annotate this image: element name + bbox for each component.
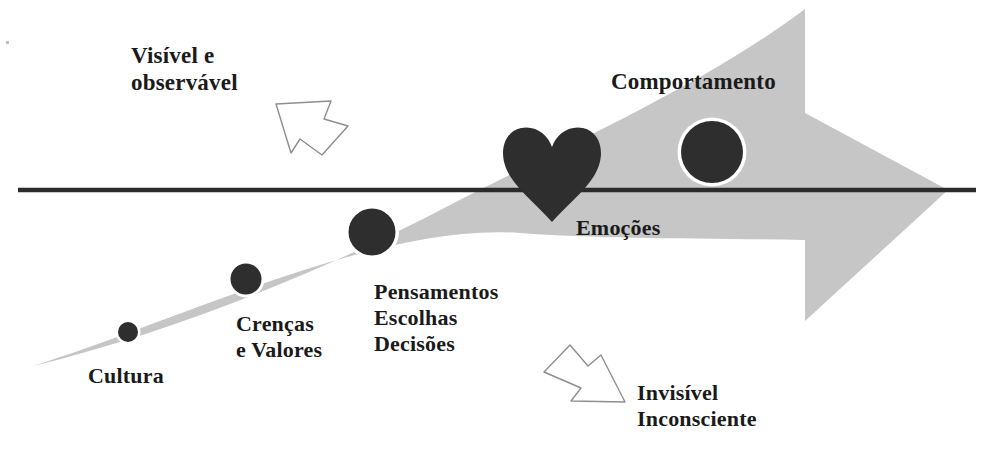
label-comportamento-text: Comportamento bbox=[611, 69, 776, 94]
label-visivel-observavel: Visível eobservável bbox=[131, 42, 238, 96]
label-cultura: Cultura bbox=[88, 363, 164, 389]
label-emocoes: Emoções bbox=[576, 215, 661, 241]
diagram-canvas: Visível eobservável Comportamento Emoçõe… bbox=[0, 0, 993, 450]
scan-artifact-dot bbox=[6, 41, 9, 44]
arrow-up-left-outline-icon bbox=[276, 101, 348, 155]
label-pensamentos-line3: Decisões bbox=[374, 331, 455, 356]
label-invisivel-line2: Inconsciente bbox=[637, 406, 757, 431]
label-visivel-line1: Visível e bbox=[131, 43, 214, 68]
arrow-down-right-outline-icon bbox=[544, 345, 625, 402]
label-pensamentos-line2: Escolhas bbox=[374, 305, 458, 330]
label-pensamentos-escolhas-decisoes: PensamentosEscolhasDecisões bbox=[374, 279, 498, 357]
marker-comportamento-dot bbox=[681, 121, 743, 183]
marker-crencas-dot bbox=[231, 264, 262, 295]
marker-cultura-dot bbox=[118, 322, 138, 342]
label-pensamentos-line1: Pensamentos bbox=[374, 279, 498, 304]
label-invisivel-line1: Invisível bbox=[637, 380, 718, 405]
label-visivel-line2: observável bbox=[131, 70, 238, 95]
label-crencas-valores: Crençase Valores bbox=[236, 311, 322, 363]
label-cultura-text: Cultura bbox=[88, 363, 164, 388]
label-crencas-line1: Crenças bbox=[236, 311, 314, 336]
label-invisivel-inconsciente: InvisívelInconsciente bbox=[637, 380, 757, 432]
label-comportamento: Comportamento bbox=[611, 68, 776, 95]
marker-pensamentos-dot bbox=[349, 209, 396, 256]
label-crencas-line2: e Valores bbox=[236, 337, 322, 362]
label-emocoes-text: Emoções bbox=[576, 215, 661, 240]
